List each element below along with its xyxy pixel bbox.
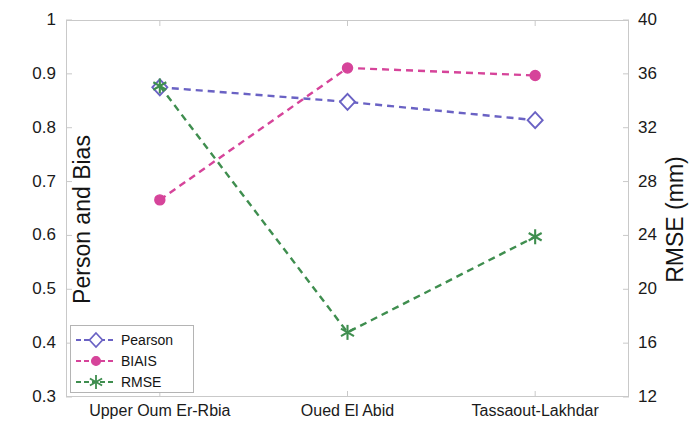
series-rmse <box>153 78 541 339</box>
legend-item-biais[interactable]: BIAIS <box>71 350 193 371</box>
legend: Pearson BIAIS RMSE <box>70 325 194 393</box>
legend-label-biais: BIAIS <box>121 353 157 369</box>
legend-item-rmse[interactable]: RMSE <box>71 371 193 392</box>
series-biais <box>155 63 540 205</box>
legend-item-pearson[interactable]: Pearson <box>71 329 193 350</box>
legend-swatch-rmse <box>75 372 117 392</box>
series-pearson <box>152 79 542 128</box>
legend-label-pearson: Pearson <box>121 332 173 348</box>
legend-label-rmse: RMSE <box>121 374 161 390</box>
legend-swatch-biais <box>75 351 117 371</box>
legend-swatch-pearson <box>75 330 117 350</box>
chart-figure: Person and Bias RMSE (mm) 0.30.40.50.60.… <box>0 0 695 424</box>
